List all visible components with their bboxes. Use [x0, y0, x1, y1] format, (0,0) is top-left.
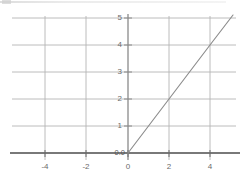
y-tick-label-1: 1	[118, 122, 122, 130]
origin-label: 0.0	[115, 149, 125, 157]
x-tick-label-4: 4	[208, 163, 212, 171]
y-tick-label-2: 2	[118, 95, 122, 103]
y-tick-label-5: 5	[118, 14, 122, 22]
data-series-line	[128, 15, 233, 153]
chart-container: -4 -2 0 2 4 1 2 3 4 5 0.0	[0, 0, 248, 182]
x-tick-label--2: -2	[82, 163, 89, 171]
y-tick-label-4: 4	[118, 41, 122, 49]
x-tick-label-0: 0	[126, 163, 130, 171]
x-tick-label-2: 2	[167, 163, 171, 171]
y-tick-label-3: 3	[118, 68, 122, 76]
x-tick-label--4: -4	[41, 163, 48, 171]
